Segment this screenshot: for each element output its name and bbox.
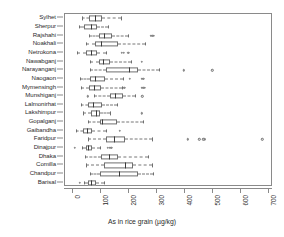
y-axis-tick <box>57 69 63 70</box>
cap-lower <box>86 43 87 46</box>
cap-lower <box>90 69 91 72</box>
cap-lower <box>81 86 82 89</box>
whisker-upper <box>100 113 110 114</box>
median-line <box>95 16 96 21</box>
outlier-point <box>142 78 144 80</box>
x-axis-tick <box>212 189 213 193</box>
outlier-point <box>183 69 185 71</box>
whisker-upper <box>101 87 122 88</box>
cap-lower <box>80 77 81 80</box>
y-axis-label-chandpur: Chandpur <box>30 170 56 176</box>
x-axis-tick-label: 500 <box>215 195 221 206</box>
y-axis-tick <box>57 25 63 26</box>
y-axis-label-lalmonirhat: Lalmonirhat <box>25 101 56 107</box>
cap-upper <box>106 129 107 132</box>
y-axis-label-barisal: Barisal <box>38 179 56 185</box>
cap-upper <box>152 164 153 167</box>
outlier-point <box>153 34 155 36</box>
median-line <box>95 76 96 81</box>
x-axis-tick <box>240 189 241 193</box>
median-line <box>115 94 116 99</box>
cap-upper <box>159 69 160 72</box>
whisker-upper <box>125 139 152 140</box>
box-iqr <box>106 137 125 142</box>
whisker-upper <box>102 104 117 105</box>
whisker-upper <box>102 18 121 19</box>
y-axis-label-noakhali: Noakhali <box>33 40 56 46</box>
whisker-lower <box>86 44 94 45</box>
cap-upper <box>135 95 136 98</box>
cap-upper <box>106 51 107 54</box>
cap-upper <box>148 155 149 158</box>
cap-lower <box>90 60 91 63</box>
whisker-upper <box>96 182 104 183</box>
x-axis-tick <box>156 189 157 193</box>
median-line <box>125 163 126 168</box>
cap-lower <box>88 138 89 141</box>
whisker-lower <box>89 35 99 36</box>
y-axis-label-nawabganj: Nawabganj <box>26 58 56 64</box>
cap-upper <box>110 112 111 115</box>
y-axis-tick <box>57 60 63 61</box>
cap-upper <box>131 60 132 63</box>
y-axis-label-comilla: Comilla <box>36 161 56 167</box>
median-line <box>109 154 110 159</box>
outlier-point <box>74 147 76 149</box>
cap-lower <box>89 34 90 37</box>
whisker-lower <box>77 52 86 53</box>
median-line <box>96 111 97 116</box>
box-iqr <box>106 68 137 73</box>
outlier-point <box>144 86 146 88</box>
whisker-upper <box>118 44 145 45</box>
cap-lower <box>76 129 77 132</box>
cap-upper <box>153 172 154 175</box>
cap-upper <box>100 146 101 149</box>
cap-upper <box>123 77 124 80</box>
cap-upper <box>121 17 122 20</box>
whisker-lower <box>94 96 110 97</box>
y-axis-tick <box>57 112 63 113</box>
y-axis-tick <box>57 43 63 44</box>
box-iqr <box>99 33 112 38</box>
outlier-point <box>123 86 125 88</box>
outlier-point <box>140 112 142 114</box>
median-line <box>93 102 94 107</box>
y-axis-tick <box>57 77 63 78</box>
x-axis-tick-label: 0 <box>75 195 81 199</box>
median-line <box>119 171 120 176</box>
x-axis-title: As in rice grain (µg/kg) <box>0 218 284 226</box>
whisker-upper <box>138 174 154 175</box>
outlier-point <box>141 95 143 97</box>
whisker-upper <box>133 165 152 166</box>
plot-area <box>64 13 272 186</box>
boxplot-series <box>65 14 271 185</box>
cap-upper <box>117 103 118 106</box>
median-line <box>114 137 115 142</box>
whisker-upper <box>97 52 106 53</box>
box-iqr <box>99 59 110 64</box>
box-iqr <box>89 16 102 21</box>
x-axis-tick-label: 200 <box>131 195 137 206</box>
x-axis-tick <box>128 189 129 193</box>
cap-lower <box>86 164 87 167</box>
y-axis-tick <box>57 138 63 139</box>
outlier-point <box>129 78 131 80</box>
outlier-point <box>211 69 213 71</box>
y-axis-label-dhaka: Dhaka <box>39 153 56 159</box>
y-axis-category-labels: SylhetSherpurRajshahiNoakhaliNetrokonaNa… <box>0 13 56 186</box>
y-axis-tick <box>57 95 63 96</box>
outlier-point <box>119 130 121 132</box>
cap-lower <box>82 146 83 149</box>
outlier-point <box>127 52 129 54</box>
whisker-upper <box>110 61 131 62</box>
whisker-lower <box>88 122 100 123</box>
cap-lower <box>81 103 82 106</box>
cap-lower <box>82 17 83 20</box>
median-line <box>91 180 92 185</box>
whisker-lower <box>90 70 106 71</box>
x-axis-tick-label: 100 <box>103 195 109 206</box>
y-axis-tick <box>57 147 63 148</box>
y-axis-label-mymensingh: Mymensingh <box>22 83 56 89</box>
whisker-upper <box>92 130 105 131</box>
whisker-upper <box>97 26 108 27</box>
